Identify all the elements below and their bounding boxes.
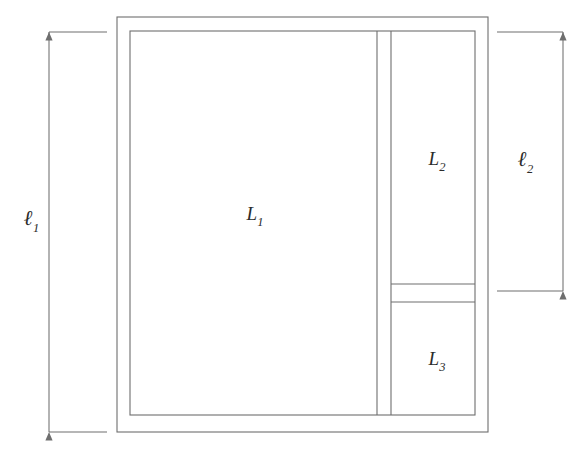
dimension-label-l1-subscript: 1 [33, 221, 39, 235]
dimension-label-l1-text: ℓ [24, 206, 33, 230]
room-label-l2-subscript: 2 [439, 160, 445, 174]
room-label-l1-text: L [246, 203, 258, 224]
room-label-l2-text: L [428, 148, 440, 169]
dimension-l1-group [49, 32, 107, 432]
room-label-l3-text: L [428, 348, 440, 369]
floor-plan-figure: L1 L2 L3 ℓ1 ℓ2 [0, 0, 581, 452]
outer-wall-rect [117, 17, 488, 432]
inner-wall-rect [130, 31, 475, 415]
room-label-l2: L2 [428, 148, 446, 174]
outer-wall-outline [117, 17, 488, 432]
dimension-label-l2: ℓ2 [518, 147, 533, 176]
room-label-l1: L1 [246, 203, 264, 229]
dimension-label-l2-subscript: 2 [527, 162, 533, 176]
floor-plan-drawing: L1 L2 L3 ℓ1 ℓ2 [0, 0, 581, 452]
dimension-label-l2-text: ℓ [518, 147, 527, 171]
room-label-l3-subscript: 3 [438, 360, 445, 374]
room-label-l1-subscript: 1 [257, 215, 263, 229]
room-label-l3: L3 [428, 348, 446, 374]
dimension-label-l1: ℓ1 [24, 206, 39, 235]
inner-wall-outline [130, 31, 475, 415]
interior-partition-wall [377, 31, 391, 415]
room-divider-wall [391, 284, 475, 302]
